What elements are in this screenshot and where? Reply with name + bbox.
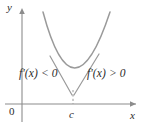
x-axis-arrowhead [130,101,136,107]
parabola-curve [43,12,110,68]
derivative-positive-label: f'(x) > 0 [87,68,126,80]
graph-figure: f'(x) < 0 f'(x) > 0 y x 0 c [0,0,144,130]
derivative-negative-label: f'(x) < 0 [19,68,58,80]
origin-label: 0 [9,106,15,117]
critical-point-label: c [69,109,74,120]
y-axis-label: y [7,2,12,13]
y-axis-arrowhead [19,8,25,14]
x-axis-label: x [130,110,135,121]
